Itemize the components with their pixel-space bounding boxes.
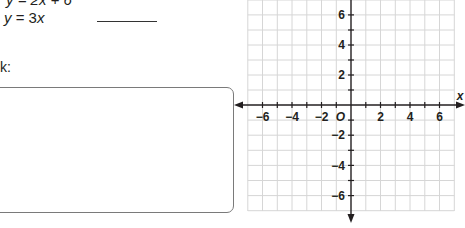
origin-label: O xyxy=(336,110,346,124)
x-tick-label: 6 xyxy=(436,110,443,124)
y-tick-label: 4 xyxy=(338,38,345,52)
x-tick-label: −2 xyxy=(315,110,329,124)
y-tick-label: 2 xyxy=(338,68,345,82)
coordinate-grid: −6 −4 −2 2 4 6 6 4 2 −2 −4 −6 O x xyxy=(0,0,465,228)
x-axis xyxy=(234,102,465,109)
x-axis-label: x xyxy=(456,89,465,103)
x-tick-label: 4 xyxy=(407,110,414,124)
y-tick-label: 6 xyxy=(338,8,345,22)
y-tick-label: −6 xyxy=(331,189,345,203)
arrow-left-icon xyxy=(234,102,243,109)
x-tick-label: 2 xyxy=(377,110,384,124)
x-tick-label: −4 xyxy=(285,110,299,124)
y-tick-label: −2 xyxy=(331,128,345,142)
y-axis xyxy=(348,0,355,223)
arrow-down-icon xyxy=(348,214,355,223)
x-tick-label: −6 xyxy=(256,110,270,124)
y-tick-label: −4 xyxy=(331,159,345,173)
